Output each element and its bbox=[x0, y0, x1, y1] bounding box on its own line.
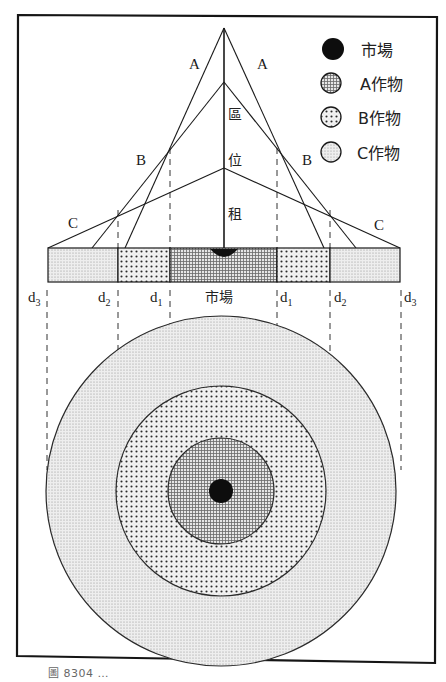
rent-axis-char-2: 位 bbox=[228, 152, 242, 168]
label-b-right: B bbox=[302, 152, 312, 168]
legend-c-swatch bbox=[321, 142, 341, 162]
legend-b-label: B作物 bbox=[358, 109, 401, 128]
legend-a-label: A作物 bbox=[360, 75, 403, 94]
legend-market-swatch bbox=[322, 38, 344, 60]
legend-b-swatch bbox=[321, 107, 341, 127]
legend-a-swatch bbox=[321, 73, 341, 93]
concentric-rings bbox=[46, 316, 396, 666]
bid-rent-line-b-right bbox=[224, 82, 356, 248]
bar-segment-c-right bbox=[330, 248, 400, 282]
bid-rent-line-c-right bbox=[224, 168, 400, 248]
bar-segment-c-left bbox=[48, 248, 118, 282]
market-dot bbox=[209, 479, 233, 503]
rent-axis-char-1: 區 bbox=[228, 106, 242, 122]
bar-segment-b-left bbox=[118, 248, 170, 282]
label-a-right: A bbox=[257, 56, 268, 72]
marker-d1-right: d1 bbox=[280, 289, 293, 308]
label-c-right: C bbox=[374, 217, 384, 233]
marker-d3-left: d3 bbox=[28, 289, 41, 308]
rent-axis-char-3: 租 bbox=[228, 206, 242, 222]
bid-rent-line-c-left bbox=[48, 168, 224, 248]
legend-c-label: C作物 bbox=[357, 144, 400, 163]
label-a-left: A bbox=[189, 56, 200, 72]
bid-rent-line-a-left bbox=[125, 28, 224, 248]
distance-bar bbox=[48, 248, 400, 282]
bar-segment-b-right bbox=[277, 248, 330, 282]
bid-rent-lines bbox=[48, 28, 400, 255]
marker-d2-left: d2 bbox=[98, 289, 111, 308]
marker-d1-left: d1 bbox=[150, 289, 163, 308]
marker-d2-right: d2 bbox=[334, 289, 347, 308]
marker-d3-right: d3 bbox=[404, 289, 417, 308]
label-b-left: B bbox=[136, 152, 146, 168]
legend-market-label: 市場 bbox=[361, 41, 393, 60]
bid-rent-line-b-left bbox=[92, 82, 224, 248]
legend: 市場 A作物 B作物 C作物 bbox=[321, 38, 403, 163]
von-thunen-diagram: A A B B C C 區 位 租 d3 d2 d1 d1 d2 d3 市場 市… bbox=[0, 0, 446, 682]
label-c-left: C bbox=[68, 215, 78, 231]
bar-market-label: 市場 bbox=[205, 289, 233, 305]
figure-caption: 圖 8304 … bbox=[48, 664, 109, 680]
